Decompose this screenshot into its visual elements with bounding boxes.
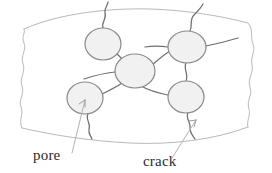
pore-bottom-left [67, 82, 103, 114]
pore-top-right [168, 31, 206, 63]
boundary-top-edge [24, 9, 248, 29]
crack-center-to-left [84, 72, 115, 79]
figure-root: pore crack [0, 0, 272, 173]
label-pore: pore [33, 147, 61, 163]
crack-top-left-exit [103, 2, 108, 28]
pore-top-left [85, 28, 121, 60]
boundary-bottom-edge [22, 127, 248, 143]
boundary-left-edge [20, 29, 25, 128]
crack-topright-exit [190, 4, 203, 31]
pore-bottom-right [168, 81, 204, 113]
boundary-right-edge [248, 23, 254, 127]
crack-network [84, 2, 238, 139]
crack-botright-left [141, 86, 168, 95]
pore-set [67, 28, 206, 114]
pore-center [115, 54, 155, 88]
label-crack: crack [143, 153, 177, 169]
crack-topright-right [206, 38, 238, 46]
crack-botleft-exit [87, 114, 92, 139]
crack-topright-left [145, 46, 168, 47]
crack-center-to-botleft [100, 83, 122, 95]
crack-topright-to-botright [185, 63, 187, 81]
porous-material-diagram: pore crack [0, 0, 272, 173]
